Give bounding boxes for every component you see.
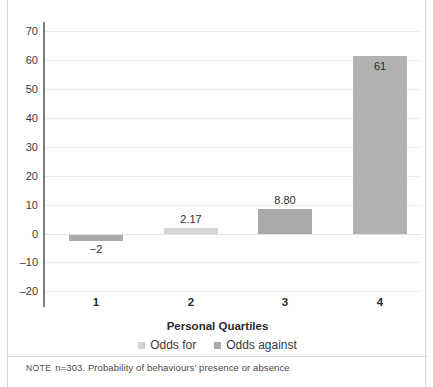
bar-value-label-3: 8.80	[255, 194, 315, 206]
xtick-label-3: 3	[255, 296, 315, 308]
x-axis-title: Personal Quartiles	[8, 320, 427, 332]
legend-item-odds-against[interactable]: Odds against	[214, 338, 297, 352]
y-axis-spine	[43, 22, 45, 307]
legend-swatch-icon-odds-for	[138, 342, 145, 349]
gridline-minus20	[43, 291, 422, 292]
legend-label-odds-against: Odds against	[226, 338, 297, 352]
ytick-label-20: 20	[8, 171, 38, 182]
gridline-70	[43, 31, 422, 32]
chart-legend: Odds for Odds against	[8, 338, 427, 352]
chart-plot-area: 70 60 50 40 30 20 10 0 –10 –20 −2 2.17 8…	[8, 0, 427, 310]
note-text: n=303. Probability of behaviours’ presen…	[55, 362, 289, 373]
bar-quartile-2[interactable]	[164, 228, 218, 234]
bar-value-label-4: 61	[350, 60, 410, 72]
ytick-label-minus10: –10	[8, 257, 38, 268]
legend-label-odds-for: Odds for	[150, 338, 196, 352]
bar-value-label-2: 2.17	[161, 213, 221, 225]
bar-quartile-1[interactable]	[69, 235, 123, 241]
bar-value-label-1: −2	[66, 243, 126, 255]
ytick-label-10: 10	[8, 200, 38, 211]
ytick-label-30: 30	[8, 142, 38, 153]
ytick-label-50: 50	[8, 84, 38, 95]
ytick-label-60: 60	[8, 55, 38, 66]
legend-item-odds-for[interactable]: Odds for	[138, 338, 196, 352]
figure-container: 70 60 50 40 30 20 10 0 –10 –20 −2 2.17 8…	[7, 0, 426, 387]
xtick-label-1: 1	[66, 296, 126, 308]
xtick-label-2: 2	[161, 296, 221, 308]
ytick-label-minus20: –20	[8, 286, 38, 297]
note-keyword: NOTE	[26, 363, 51, 373]
xtick-label-4: 4	[350, 296, 410, 308]
ytick-label-70: 70	[8, 26, 38, 37]
legend-swatch-icon-odds-against	[214, 342, 221, 349]
footer-divider	[8, 356, 427, 357]
gridline-minus10	[43, 262, 422, 263]
bar-quartile-4[interactable]	[353, 56, 407, 234]
ytick-label-0: 0	[8, 229, 38, 240]
figure-note: NOTEn=303. Probability of behaviours’ pr…	[26, 362, 290, 373]
ytick-label-40: 40	[8, 113, 38, 124]
bar-quartile-3[interactable]	[258, 209, 312, 234]
